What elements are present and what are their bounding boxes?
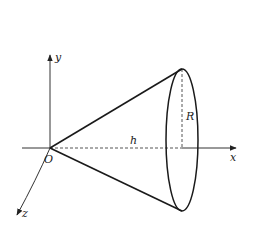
- origin-label: O: [44, 153, 53, 166]
- cone-diagram: y x z O h R: [0, 0, 253, 229]
- cone-top-edge: [50, 69, 182, 148]
- z-axis-label: z: [21, 207, 28, 220]
- cone-bottom-edge: [50, 148, 182, 211]
- y-axis-label: y: [54, 51, 62, 64]
- x-axis-label: x: [230, 151, 237, 164]
- radius-label: R: [185, 110, 194, 123]
- height-label: h: [130, 134, 137, 147]
